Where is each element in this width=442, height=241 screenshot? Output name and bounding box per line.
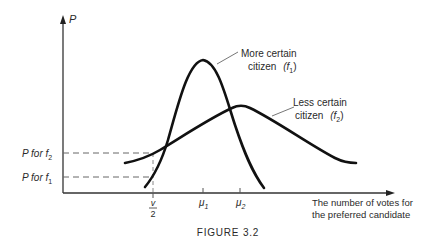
tick-label-v-numerator: v xyxy=(151,198,156,208)
f1-pointer xyxy=(217,52,238,64)
f2-annotation-line2: citizen (f2) xyxy=(295,110,344,123)
f1-annotation-line1: More certain xyxy=(241,48,297,59)
f2-pointer xyxy=(272,107,294,116)
p-for-f1-label: P for f1 xyxy=(22,172,52,185)
f1-annotation-line2: citizen (f1) xyxy=(248,61,297,74)
figure-caption: FIGURE 3.2 xyxy=(197,227,259,238)
tick-label-mu1: μ1 xyxy=(198,197,208,210)
p-for-f2-label: P for f2 xyxy=(22,148,52,161)
x-axis-arrow-icon xyxy=(386,190,395,196)
x-axis-label-line1: The number of votes for xyxy=(312,197,413,208)
figure-canvas: P More certain citizen (f1) Less certain… xyxy=(0,0,442,241)
y-axis-arrow-icon xyxy=(60,15,66,24)
tick-label-v-denominator: 2 xyxy=(150,209,155,219)
y-axis-label: P xyxy=(69,13,77,25)
tick-label-mu2: μ2 xyxy=(235,197,245,210)
x-axis-label-line2: the preferred candidate xyxy=(312,209,410,220)
f2-annotation-line1: Less certain xyxy=(293,97,347,108)
